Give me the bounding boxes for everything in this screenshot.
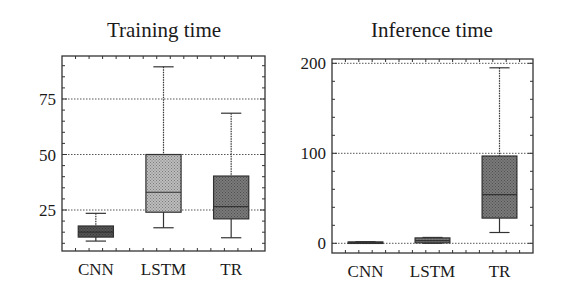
plot-area — [332, 59, 533, 253]
y-tick-label: 75 — [39, 90, 56, 109]
y-tick-label: 100 — [301, 144, 327, 163]
box-lstm — [415, 237, 450, 243]
y-axis-tick-labels: 0100200 — [301, 54, 327, 253]
plot-area — [62, 56, 265, 251]
x-tick-label: TR — [489, 262, 511, 281]
x-tick-label: CNN — [348, 262, 384, 281]
x-tick-label: LSTM — [141, 260, 186, 279]
y-tick-label: 25 — [39, 201, 56, 220]
y-tick-label: 50 — [39, 146, 56, 165]
x-tick-label: TR — [220, 260, 242, 279]
inference-time-panel: Inference time 0100200 CNNLSTMTR — [301, 18, 534, 281]
training-time-panel: Training time 255075 CNNLSTMTR — [39, 18, 265, 279]
box-cnn — [348, 242, 383, 244]
chart-title: Inference time — [371, 18, 493, 42]
y-axis-tick-labels: 255075 — [39, 90, 56, 220]
x-axis-tick-labels: CNNLSTMTR — [78, 260, 243, 279]
x-axis-tick-labels: CNNLSTMTR — [348, 262, 511, 281]
chart-title: Training time — [107, 18, 221, 42]
y-tick-label: 0 — [318, 234, 327, 253]
box-tr — [214, 113, 249, 238]
box-tr — [482, 68, 517, 233]
box-plots-svg: Training time 255075 CNNLSTMTR Inference… — [0, 0, 565, 295]
box-lstm — [146, 67, 181, 228]
box-cnn — [78, 213, 113, 241]
x-tick-label: LSTM — [410, 262, 455, 281]
y-tick-label: 200 — [301, 54, 327, 73]
x-tick-label: CNN — [78, 260, 114, 279]
figure: Training time 255075 CNNLSTMTR Inference… — [0, 0, 565, 295]
